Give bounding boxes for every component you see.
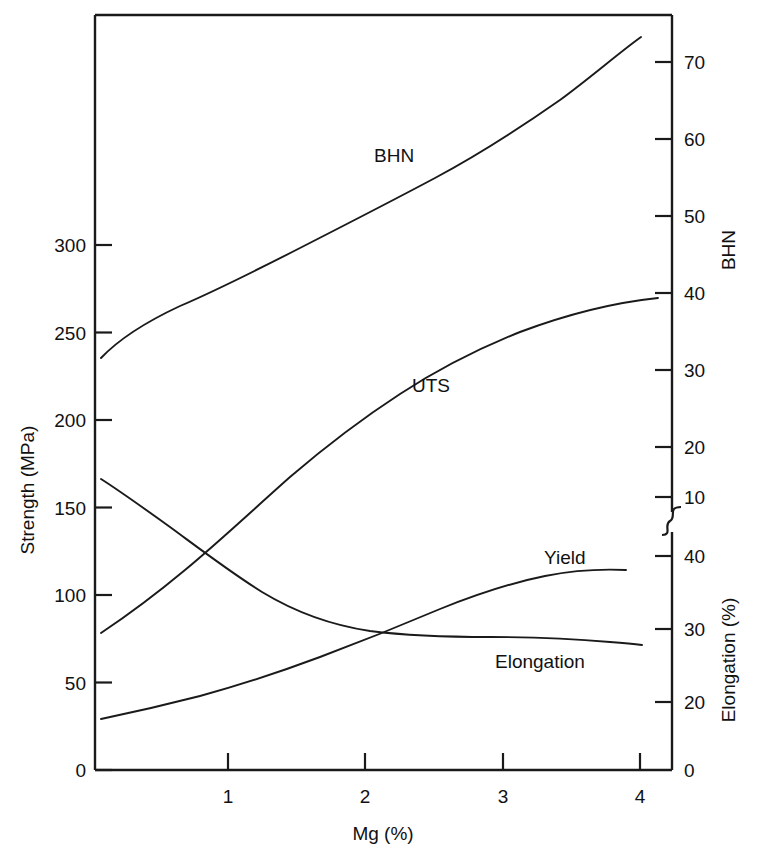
y-left-axis: 0 50 100 150 200 250 300 Strength (MPa) xyxy=(17,235,112,781)
y-right-bhn-tick-label-20: 20 xyxy=(684,437,705,458)
bhn-curve-label: BHN xyxy=(374,145,414,166)
yield-curve xyxy=(101,570,626,719)
x-tick-label-1: 1 xyxy=(223,786,234,807)
y-left-tick-label-100: 100 xyxy=(54,585,86,606)
x-tick-label-4: 4 xyxy=(635,786,646,807)
y-right-elong-tick-label-30: 30 xyxy=(684,619,705,640)
y-right-elong-tick-label-20: 20 xyxy=(684,692,705,713)
y-right-elong-tick-label-40: 40 xyxy=(684,546,705,567)
uts-curve xyxy=(101,298,658,633)
x-axis: 1 2 3 4 Mg (%) xyxy=(223,753,646,844)
y-right-bhn-tick-label-10: 10 xyxy=(684,487,705,508)
y-left-tick-label-300: 300 xyxy=(54,235,86,256)
y-right-bhn-tick-label-50: 50 xyxy=(684,206,705,227)
chart-figure: 0 50 100 150 200 250 300 Strength (MPa) … xyxy=(0,0,763,860)
y-right-bhn-tick-label-70: 70 xyxy=(684,52,705,73)
y-right-bhn-axis: 70 60 50 40 30 20 10 BHN xyxy=(655,52,739,508)
y-left-tick-label-250: 250 xyxy=(54,323,86,344)
x-tick-label-2: 2 xyxy=(360,786,371,807)
bhn-curve xyxy=(101,37,641,358)
elongation-curve-label: Elongation xyxy=(495,651,585,672)
uts-curve-label: UTS xyxy=(412,375,450,396)
y-right-bhn-tick-label-30: 30 xyxy=(684,360,705,381)
y-left-tick-label-50: 50 xyxy=(65,673,86,694)
strength-bhn-elongation-vs-mg-chart: 0 50 100 150 200 250 300 Strength (MPa) … xyxy=(0,0,763,860)
y-right-elongation-axis: 40 30 20 0 Elongation (%) xyxy=(655,546,739,781)
yield-curve-label: Yield xyxy=(544,547,586,568)
y-right-origin-label: 0 xyxy=(684,760,695,781)
y-right-lower-axis-title: Elongation (%) xyxy=(718,598,739,723)
x-tick-label-3: 3 xyxy=(498,786,509,807)
x-axis-title: Mg (%) xyxy=(352,823,413,844)
y-left-axis-title: Strength (MPa) xyxy=(17,426,38,555)
plot-frame xyxy=(95,15,681,770)
y-left-tick-label-150: 150 xyxy=(54,498,86,519)
y-left-tick-label-0: 0 xyxy=(75,760,86,781)
y-right-upper-axis-title: BHN xyxy=(718,230,739,270)
curve-labels: BHN UTS Yield Elongation xyxy=(374,145,586,672)
y-right-bhn-tick-label-60: 60 xyxy=(684,129,705,150)
y-left-tick-label-200: 200 xyxy=(54,410,86,431)
data-curves xyxy=(101,37,658,719)
y-right-bhn-tick-label-40: 40 xyxy=(684,283,705,304)
